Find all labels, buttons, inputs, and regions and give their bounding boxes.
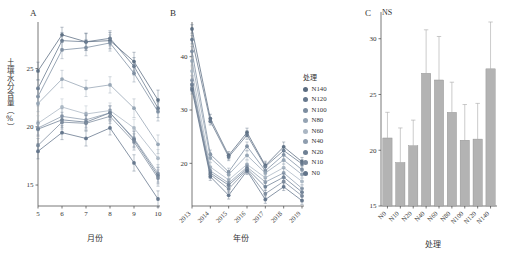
data-point (263, 185, 267, 189)
y-tick-label: 40 (181, 53, 189, 61)
x-tick-label: 2017 (251, 209, 266, 224)
x-tick-label: 7 (84, 210, 88, 218)
data-point (36, 127, 40, 131)
series-line (38, 38, 158, 108)
data-point (84, 121, 88, 125)
error-bar (411, 120, 415, 146)
data-point (132, 126, 136, 130)
x-tick-label: N140 (475, 210, 490, 225)
data-point (84, 137, 88, 141)
data-point (132, 140, 136, 144)
panel-b-x-axis-title: 年份 (191, 232, 291, 243)
error-bar (385, 112, 389, 138)
data-point (300, 199, 304, 203)
legend-item-n0[interactable]: N0 (303, 168, 327, 179)
y-tick-label: 20 (27, 123, 35, 131)
data-point (60, 131, 64, 135)
bar-rect (473, 139, 482, 206)
legend-marker-icon (303, 118, 308, 123)
legend-item-label: N0 (312, 170, 320, 177)
series-n0 (36, 121, 160, 207)
x-tick-label: 10 (155, 210, 163, 218)
data-point (156, 176, 160, 180)
panel-b: B 2030402013201420152016201720182019 年份 (166, 0, 316, 261)
y-tick-label: 20 (181, 160, 189, 168)
legend-item-label: N140 (312, 86, 327, 93)
data-point (108, 83, 112, 87)
bar-n100[interactable] (460, 105, 469, 206)
y-tick-label: 15 (370, 202, 378, 210)
data-point (132, 71, 136, 75)
data-point (190, 59, 194, 63)
bar-rect (486, 69, 495, 206)
bar-rect (460, 140, 469, 206)
y-tick-label: 15 (27, 181, 35, 189)
data-point (132, 106, 136, 110)
panel-c-x-axis-title: 处理 (380, 238, 485, 249)
data-point (156, 110, 160, 114)
bar-n80[interactable] (447, 82, 456, 206)
bar-n40[interactable] (421, 30, 430, 206)
x-tick-label: N10 (387, 210, 400, 223)
x-tick-label: 2016 (233, 209, 248, 224)
data-point (108, 126, 112, 130)
panel-a-letter: A (30, 8, 37, 18)
legend-item-n20[interactable]: N20 (303, 147, 327, 158)
x-tick-label: N20 (400, 210, 413, 223)
data-point (108, 41, 112, 45)
series-line (38, 35, 158, 100)
data-point (36, 102, 40, 106)
y-tick-label: 25 (27, 65, 35, 73)
y-tick-label: 25 (370, 91, 378, 99)
bar-n60[interactable] (434, 36, 443, 206)
data-point (245, 133, 249, 137)
data-point (36, 69, 40, 73)
data-point (227, 155, 231, 159)
bar-n120[interactable] (473, 103, 482, 206)
error-bar (424, 30, 428, 73)
data-point (300, 180, 304, 184)
x-tick-label: N100 (449, 210, 464, 225)
data-point (208, 175, 212, 179)
panel-a-x-axis-title: 月份 (40, 232, 150, 243)
error-bar (437, 36, 441, 79)
error-bar (463, 105, 467, 141)
treatment-legend[interactable]: 处理 N140N120N100N80N60N40N20N10N0 (303, 72, 327, 179)
legend-item-n40[interactable]: N40 (303, 137, 327, 148)
legend-item-n100[interactable]: N100 (303, 105, 327, 116)
x-tick-label: N40 (413, 210, 426, 223)
legend-item-label: N60 (312, 128, 324, 135)
legend-marker-icon (303, 139, 308, 144)
data-point (36, 149, 40, 153)
bar-rect (421, 73, 430, 206)
data-point (156, 156, 160, 160)
legend-marker-icon (303, 97, 308, 102)
x-tick-label: N0 (377, 210, 388, 221)
legend-item-n140[interactable]: N140 (303, 84, 327, 95)
legend-item-n120[interactable]: N120 (303, 95, 327, 106)
error-bar (450, 82, 454, 112)
data-point (245, 153, 249, 157)
legend-item-n60[interactable]: N60 (303, 126, 327, 137)
series-n20 (36, 106, 160, 184)
data-point (282, 158, 286, 162)
bar-n20[interactable] (409, 120, 418, 206)
error-bar (475, 103, 479, 139)
legend-item-n80[interactable]: N80 (303, 116, 327, 127)
bar-n0[interactable] (383, 112, 392, 206)
bar-rect (447, 112, 456, 206)
bar-n140[interactable] (486, 22, 495, 206)
series-n100 (36, 35, 160, 121)
bar-rect (396, 163, 405, 206)
legend-item-label: N120 (312, 96, 327, 103)
series-line (38, 128, 158, 199)
panel-a: A 土壤水分含量（%） 1520255678910 月份 (0, 0, 168, 261)
data-point (245, 169, 249, 173)
y-tick-label: 20 (370, 147, 378, 155)
series-line (38, 79, 158, 144)
legend-marker-icon (303, 87, 308, 92)
legend-item-n10[interactable]: N10 (303, 158, 327, 169)
data-point (245, 144, 249, 148)
x-tick-label: N60 (426, 210, 439, 223)
bar-n10[interactable] (396, 128, 405, 206)
